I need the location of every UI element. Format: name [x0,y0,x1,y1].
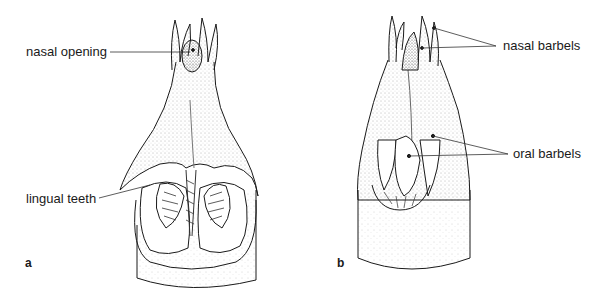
panel-a-drawing [120,18,258,288]
panel-b-drawing [358,16,471,269]
label-nasal-barbels: nasal barbels [503,39,580,52]
panel-label-a: a [25,257,32,269]
panel-label-b: b [337,257,344,269]
label-oral-barbels: oral barbels [513,147,581,160]
label-nasal-opening: nasal opening [26,45,107,58]
label-lingual-teeth: lingual teeth [26,192,96,205]
